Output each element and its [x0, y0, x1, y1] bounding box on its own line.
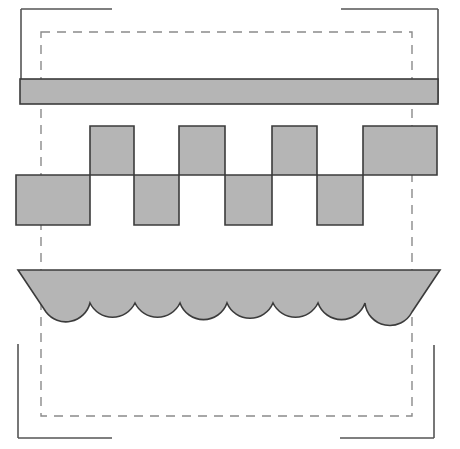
diagram-canvas: [0, 0, 460, 449]
figure-svg: [0, 0, 460, 449]
horizontal-bar-shape: [20, 79, 438, 104]
